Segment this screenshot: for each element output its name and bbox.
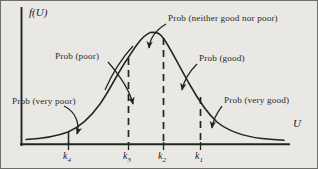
tick-sub-k3: 3 — [127, 156, 131, 164]
annotation-prob-neither-good-nor-poor: Prob (neither good nor poor) — [168, 13, 278, 23]
annotation-prob-good: Prob (good) — [199, 53, 245, 63]
tick-label-k3: k3 — [123, 150, 131, 164]
annotation-prob-very-poor: Prob (very poor) — [12, 96, 76, 106]
figure-canvas — [0, 0, 318, 169]
annotation-prob-very-good: Prob (very good) — [224, 95, 289, 105]
density-curve — [26, 32, 284, 140]
tick-label-k1: k1 — [195, 150, 203, 164]
tick-sub-k1: 1 — [199, 156, 203, 164]
utility-density-figure: f(U) U k4 k3 k2 k1 Prob (very poor) Prob… — [0, 0, 318, 169]
y-axis-label: f(U) — [29, 6, 47, 18]
tick-label-k4: k4 — [63, 150, 71, 164]
tick-sub-k4: 4 — [67, 156, 71, 164]
leader-arrow-good — [182, 64, 197, 90]
x-axis-label: U — [293, 117, 301, 129]
tick-label-k2: k2 — [158, 150, 166, 164]
tick-sub-k2: 2 — [162, 156, 166, 164]
annotation-prob-poor: Prob (poor) — [55, 51, 99, 61]
